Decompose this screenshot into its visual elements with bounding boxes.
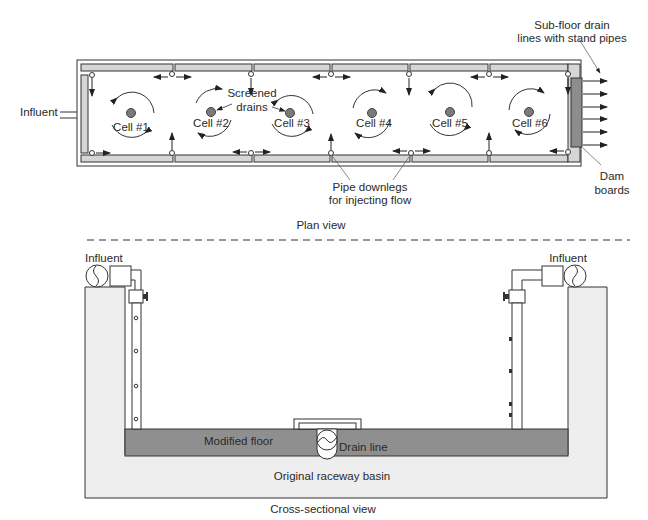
top-wall — [81, 64, 568, 71]
cell-6: Cell #6 — [509, 89, 550, 135]
drain-line-label: Drain line — [339, 441, 388, 453]
plan-view-title: Plan view — [296, 219, 346, 231]
cell-1-label: Cell #1 — [113, 121, 149, 133]
dam-boards — [571, 78, 582, 147]
stand-pipes — [90, 72, 571, 156]
screened-drains-label-1: Screened — [227, 87, 276, 99]
influent-label: Influent — [20, 106, 59, 118]
raceway-diagram: Cell #1 Cell #2 Cell #3 Cell #4 — [0, 0, 648, 520]
cell-5: Cell #5 — [430, 83, 472, 136]
bottom-wall — [81, 155, 568, 162]
flow-arrows — [92, 77, 568, 153]
cell-2: Cell #2 — [193, 89, 231, 137]
cell-4-label: Cell #4 — [356, 117, 392, 129]
subfloor-label-1: Sub-floor drain — [534, 19, 609, 31]
pipe-downlegs-label-2: for injecting flow — [329, 194, 412, 206]
outflow-arrows — [583, 81, 607, 145]
subfloor-label-2: lines with stand pipes — [517, 32, 627, 44]
cell-3-label: Cell #3 — [274, 117, 310, 129]
left-pump-icon — [86, 265, 108, 287]
cell-3: Cell #3 — [272, 96, 313, 137]
original-basin — [85, 287, 607, 498]
influent-left-label: Influent — [85, 252, 124, 264]
dam-boards-label-1: Dam — [600, 170, 624, 182]
cross-section-title: Cross-sectional view — [270, 503, 376, 515]
influent-right-label: Influent — [549, 252, 588, 264]
original-basin-label: Original raceway basin — [274, 470, 390, 482]
cell-1: Cell #1 — [112, 92, 154, 137]
modified-floor-label: Modified floor — [204, 435, 273, 447]
left-wall — [81, 75, 88, 153]
cross-section: Influent Influent Modified floor Drain l… — [85, 252, 607, 515]
cells: Cell #1 Cell #2 Cell #3 Cell #4 — [112, 83, 550, 138]
dam-boards-label-2: boards — [594, 184, 629, 196]
plan-view: Cell #1 Cell #2 Cell #3 Cell #4 — [20, 19, 630, 231]
cell-2-label: Cell #2 — [193, 117, 229, 129]
pipe-downlegs-label-1: Pipe downlegs — [333, 181, 408, 193]
cell-4: Cell #4 — [353, 90, 392, 138]
cell-5-label: Cell #5 — [432, 117, 468, 129]
screened-drains-label-2: drains — [236, 101, 268, 113]
cell-6-label: Cell #6 — [512, 117, 548, 129]
